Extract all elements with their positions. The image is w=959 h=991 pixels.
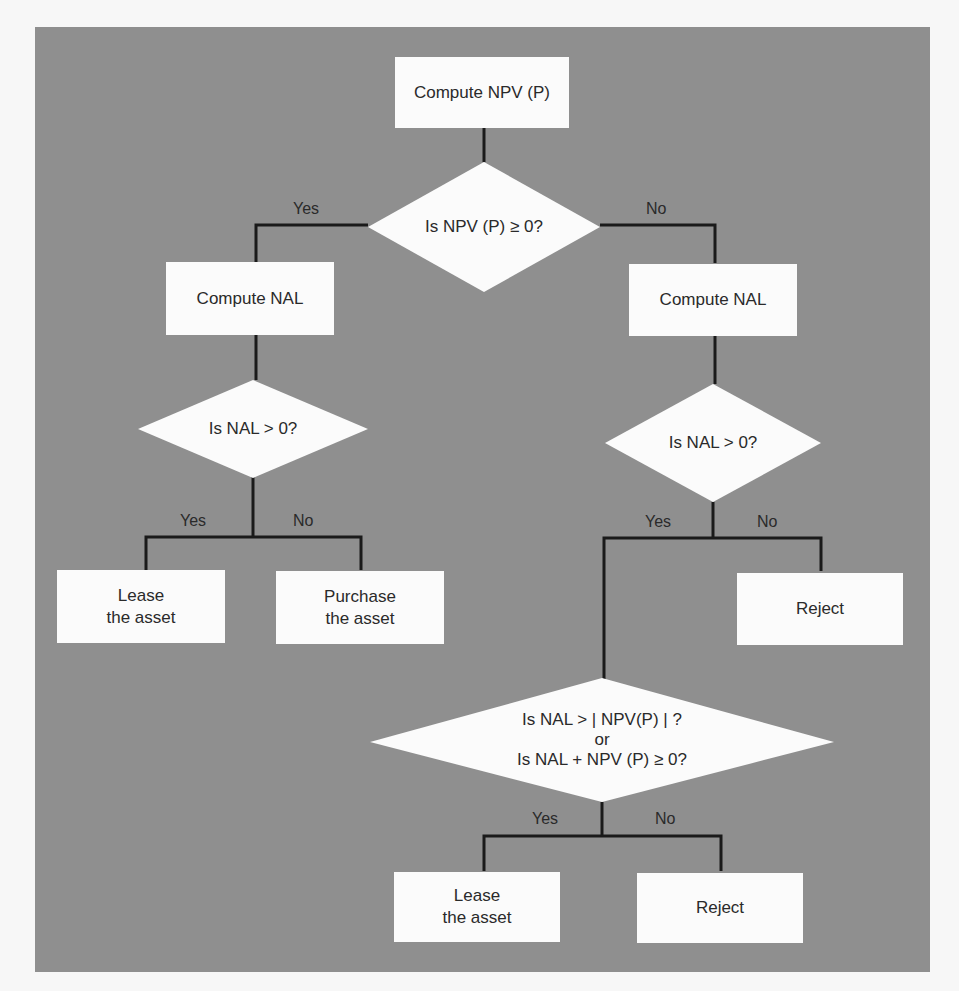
decision-combined-line1: Is NAL > | NPV(P) | ?: [522, 709, 682, 731]
decision-combined-line2: or: [594, 731, 609, 749]
edge-label-nal-left-yes: Yes: [180, 512, 206, 530]
compute-npv-box: Compute NPV (P): [395, 57, 569, 128]
edge-label-combined-yes: Yes: [532, 810, 558, 828]
purchase-line2: the asset: [326, 608, 395, 630]
reject-bottom-label: Reject: [696, 897, 744, 919]
compute-nal-right-box: Compute NAL: [629, 264, 797, 336]
edge-label-nal-right-yes: Yes: [645, 513, 671, 531]
compute-npv-label: Compute NPV (P): [414, 82, 550, 104]
compute-nal-right-label: Compute NAL: [660, 289, 767, 311]
lease-bottom-line1: Lease: [454, 885, 500, 907]
lease-asset-bottom-box: Lease the asset: [394, 872, 560, 942]
decision-combined: Is NAL > | NPV(P) | ? or Is NAL + NPV (P…: [370, 678, 834, 802]
lease-left-line1: Lease: [118, 585, 164, 607]
reject-right-label: Reject: [796, 598, 844, 620]
purchase-line1: Purchase: [324, 586, 396, 608]
edge-label-npv-no: No: [646, 200, 666, 218]
decision-nal-left: Is NAL > 0?: [138, 380, 368, 478]
reject-bottom-box: Reject: [637, 873, 803, 943]
edge-label-combined-no: No: [655, 810, 675, 828]
decision-npv-nonnegative: Is NPV (P) ≥ 0?: [368, 162, 600, 292]
decision-nal-left-label: Is NAL > 0?: [209, 418, 298, 440]
lease-bottom-line2: the asset: [443, 907, 512, 929]
decision-npv-label: Is NPV (P) ≥ 0?: [425, 216, 543, 238]
decision-combined-line3: Is NAL + NPV (P) ≥ 0?: [517, 749, 687, 771]
decision-nal-right-label: Is NAL > 0?: [669, 432, 758, 454]
edge-label-nal-right-no: No: [757, 513, 777, 531]
compute-nal-left-label: Compute NAL: [197, 288, 304, 310]
reject-right-box: Reject: [737, 573, 903, 645]
edge-label-npv-yes: Yes: [293, 200, 319, 218]
compute-nal-left-box: Compute NAL: [166, 262, 334, 335]
lease-left-line2: the asset: [107, 607, 176, 629]
edge-label-nal-left-no: No: [293, 512, 313, 530]
lease-asset-left-box: Lease the asset: [57, 570, 225, 643]
purchase-asset-box: Purchase the asset: [276, 571, 444, 644]
decision-nal-right: Is NAL > 0?: [605, 384, 821, 502]
